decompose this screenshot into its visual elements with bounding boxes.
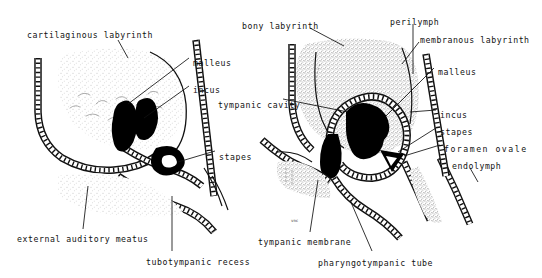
label-tympanic-membrane: tympanic membrane [258, 238, 351, 246]
label-pharyngotympanic-tube: pharyngotympanic tube [318, 259, 433, 267]
label-perilymph: perilymph [390, 18, 439, 26]
pharyngotympanic-tube-epithelium [334, 178, 400, 238]
right-lobe-1 [410, 166, 442, 223]
label-endolymph: endolymph [452, 162, 501, 170]
label-stapes-right: stapes [440, 128, 473, 136]
label-cartilaginous-labyrinth: cartilaginous labyrinth [27, 31, 153, 39]
label-malleus-left: malleus [193, 59, 231, 67]
label-incus-right: incus [440, 111, 467, 119]
left-panel-artwork [38, 40, 228, 251]
anatomy-figure: cartilaginous labyrinth malleus incus st… [0, 0, 542, 278]
right-panel-artwork [262, 24, 478, 251]
label-tubotympanic-recess: tubotympanic recess [146, 258, 250, 266]
label-foramen-ovale: foramen ovale [444, 145, 528, 153]
right-malleus-handle [320, 134, 342, 178]
label-small-annotation: vnc [291, 219, 298, 223]
label-malleus-right: malleus [438, 68, 476, 76]
left-lower-mesenchyme [58, 173, 184, 217]
label-external-auditory-meatus: external auditory meatus [17, 235, 149, 243]
label-stapes-left: stapes [219, 153, 252, 161]
label-tympanic-cavity: tympanic cavity [218, 101, 300, 109]
label-membranous-labyrinth: membranous labyrinth [420, 36, 530, 44]
label-incus-left: incus [193, 86, 220, 94]
label-bony-labyrinth: bony labyrinth [242, 22, 319, 30]
